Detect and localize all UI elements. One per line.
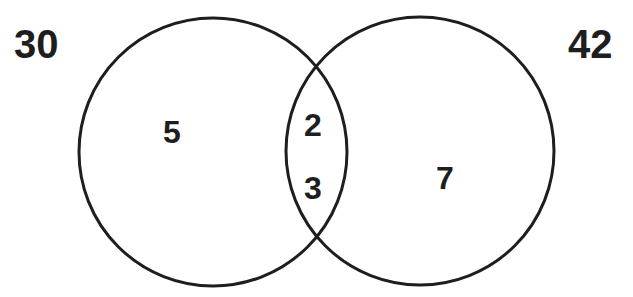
set-circle-30 <box>79 18 347 286</box>
right-only-value: 7 <box>436 160 454 196</box>
set-label-42: 42 <box>568 22 613 66</box>
intersection-value-2: 3 <box>304 170 322 206</box>
left-only-value: 5 <box>163 114 181 150</box>
set-circle-42 <box>286 17 554 285</box>
set-label-30: 30 <box>14 22 59 66</box>
venn-diagram: 30 42 5 2 3 7 <box>0 0 633 297</box>
intersection-value-1: 2 <box>304 107 322 143</box>
